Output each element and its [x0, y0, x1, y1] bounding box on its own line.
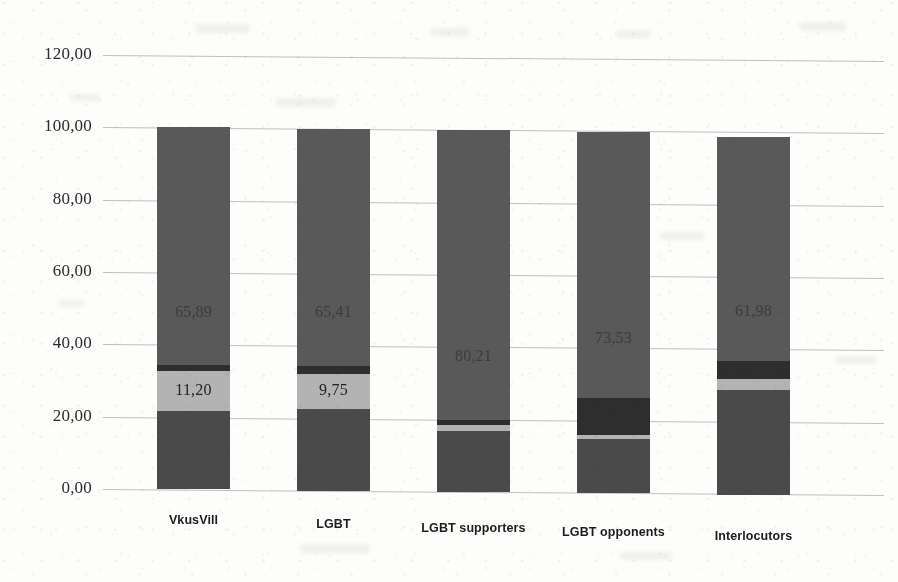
bar-segment[interactable] [437, 130, 510, 420]
y-axis-tick-label: 60,00 [10, 261, 92, 281]
y-axis-tick-label: 0,00 [10, 478, 92, 498]
bar-column[interactable]: 29,061,98 [717, 0, 790, 582]
stacked-bar-chart: 0,0020,0040,0060,0080,00100,00120,0021,5… [0, 0, 898, 582]
bar-segment[interactable] [577, 435, 650, 439]
bar-segment[interactable] [437, 425, 510, 431]
bar-segment-value-label: 14,95 [577, 456, 650, 474]
bar-segment[interactable] [717, 361, 790, 378]
bar-segment[interactable] [437, 420, 510, 425]
bar-segment-value-label: 80,21 [437, 347, 510, 365]
y-axis-tick-label: 120,00 [10, 44, 92, 64]
bar-segment[interactable] [577, 132, 650, 398]
bar-segment[interactable] [717, 379, 790, 391]
bar-segment-value-label: 16,8 [437, 452, 510, 470]
x-axis-category-label: LGBT opponents [547, 525, 680, 539]
x-axis-category-label: LGBT [267, 517, 400, 531]
bar-segment-value-label: 22,5 [297, 440, 370, 458]
bar-segment-value-label: 73,53 [577, 329, 650, 347]
bar-segment[interactable] [297, 129, 370, 366]
bar-segment-value-label: 65,41 [297, 303, 370, 321]
bar-column[interactable]: 16,880,21 [437, 0, 510, 582]
bar-segment[interactable] [297, 366, 370, 374]
x-axis-category-label: LGBT supporters [407, 521, 540, 535]
x-axis-category-label: Interlocutors [687, 529, 820, 543]
plot-area: 0,0020,0040,0060,0080,00100,00120,0021,5… [0, 0, 898, 582]
bar-column[interactable]: 14,9573,53 [577, 0, 650, 582]
y-axis-tick-label: 20,00 [10, 406, 92, 426]
bar-segment-value-label: 9,75 [297, 381, 370, 399]
bar-column[interactable]: 22,59,7565,41 [297, 0, 370, 582]
bar-segment[interactable] [577, 398, 650, 435]
bar-segment[interactable] [157, 127, 230, 365]
bar-segment-value-label: 29,0 [717, 433, 790, 451]
bar-segment-value-label: 61,98 [717, 302, 790, 320]
y-axis-tick-label: 80,00 [10, 189, 92, 209]
bar-segment-value-label: 11,20 [157, 381, 230, 399]
x-axis-category-label: VkusVill [127, 513, 260, 527]
y-axis-tick-label: 40,00 [10, 333, 92, 353]
bar-column[interactable]: 21,5511,2065,89 [157, 0, 230, 582]
y-axis-tick-label: 100,00 [10, 116, 92, 136]
bar-segment-value-label: 21,55 [157, 440, 230, 458]
bar-segment[interactable] [157, 365, 230, 370]
bar-segment[interactable] [717, 137, 790, 361]
bar-segment-value-label: 65,89 [157, 303, 230, 321]
